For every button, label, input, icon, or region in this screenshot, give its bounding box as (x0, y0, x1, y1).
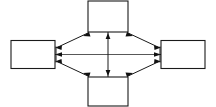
edge-bottom-right-diagonal (127, 62, 159, 77)
diagram-svg (0, 0, 216, 107)
node-box-right[interactable] (161, 41, 205, 69)
node-box-bottom[interactable] (88, 77, 128, 106)
arrowhead-top-center (106, 33, 111, 39)
node-box-left[interactable] (11, 41, 55, 69)
diagram-canvas (0, 0, 216, 107)
edge-top-left-diagonal (57, 33, 89, 48)
node-box-top[interactable] (88, 1, 128, 32)
edge-bottom-left-diagonal (57, 62, 89, 77)
edge-top-right-diagonal (127, 33, 159, 48)
arrowhead-bottom-center (106, 70, 111, 76)
